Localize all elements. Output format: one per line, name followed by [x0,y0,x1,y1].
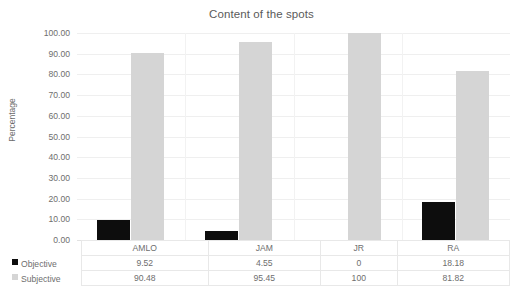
square-swatch-icon [12,274,18,280]
y-axis-tick-label: 50.00 [8,132,70,142]
table-cell-value: 95.45 [208,271,320,286]
table-cell-value: 9.52 [82,256,209,271]
table-cell-value: 0 [320,256,397,271]
y-axis-tick-label: 20.00 [8,194,70,204]
table-column-header: RA [397,241,509,256]
y-axis-tick-label: 100.00 [8,28,70,38]
chart-data-table: AMLOJAMJRRAObjective9.524.55018.18Subjec… [8,240,510,286]
table-cell-value: 18.18 [397,256,509,271]
y-axis-tick-label: 80.00 [8,69,70,79]
bar-subjective-amlo [131,53,164,240]
y-axis-tick-label: 10.00 [8,214,70,224]
table-column-header: AMLO [82,241,209,256]
table-cell-value: 100 [320,271,397,286]
bar-objective-ra [422,202,455,240]
table-corner-cell [8,241,82,256]
bar-chart-figure: Content of the spots Percentage 0.0010.0… [0,0,523,297]
y-axis-tick-label: 30.00 [8,173,70,183]
bar-objective-jam [205,231,238,240]
y-axis-tick-label: 70.00 [8,90,70,100]
legend-label: Objective [21,258,57,268]
legend-label: Subjective [21,273,61,283]
y-axis-tick-label: 90.00 [8,49,70,59]
bar-group-ra [402,33,510,240]
table-cell-value: 90.48 [82,271,209,286]
table-column-header: JAM [208,241,320,256]
bar-group-jam [185,33,293,240]
square-swatch-icon [12,259,18,265]
table-column-header: JR [320,241,397,256]
y-axis-tick-labels: 0.0010.0020.0030.0040.0050.0060.0070.008… [8,33,70,240]
table-cell-value: 81.82 [397,271,509,286]
bar-subjective-ra [456,71,489,240]
y-axis-tick-label: 40.00 [8,152,70,162]
bar-group-amlo [77,33,185,240]
table-cell-value: 4.55 [208,256,320,271]
bar-objective-amlo [97,220,130,240]
table-row: Objective9.524.55018.18 [8,256,510,271]
bar-subjective-jr [348,33,381,240]
bar-subjective-jam [239,42,272,240]
bar-group-jr [294,33,402,240]
legend-entry-subjective: Subjective [8,271,82,286]
legend-entry-objective: Objective [8,256,82,271]
table-row: Subjective90.4895.4510081.82 [8,271,510,286]
table-row: AMLOJAMJRRA [8,241,510,256]
chart-title: Content of the spots [0,8,523,20]
y-axis-tick-label: 60.00 [8,111,70,121]
plot-area [77,33,510,240]
